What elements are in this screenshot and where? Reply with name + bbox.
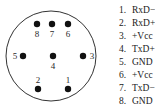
pin-1-label: 1 xyxy=(66,76,71,85)
pinout-number: 2. xyxy=(119,17,132,30)
pin-7-dot xyxy=(49,21,55,27)
pinout-signal: GND xyxy=(132,96,153,106)
pinout-item: 6.+Vcc xyxy=(119,69,155,82)
pinout-number: 3. xyxy=(119,30,132,43)
pinout-number: 5. xyxy=(119,56,132,69)
pinout-item: 3.+Vcc xyxy=(119,30,155,43)
pinout-signal: +Vcc xyxy=(132,31,153,41)
pin-2-label: 2 xyxy=(36,76,41,85)
pinout-signal: RxD− xyxy=(132,5,155,15)
pinout-item: 2.RxD+ xyxy=(119,17,155,30)
pinout-item: 1.RxD− xyxy=(119,4,155,17)
pin-8-dot xyxy=(34,21,40,27)
pin-4-dot xyxy=(50,53,56,59)
pinout-number: 4. xyxy=(119,43,132,56)
pin-5-dot xyxy=(20,53,26,59)
pinout-item: 7.TxD− xyxy=(119,82,155,95)
pin-2-dot xyxy=(35,86,41,92)
pinout-list: 1.RxD− 2.RxD+ 3.+Vcc 4.TxD+ 5.GND 6.+Vcc… xyxy=(119,4,155,108)
pinout-number: 6. xyxy=(119,69,132,82)
pin-5-label: 5 xyxy=(13,52,18,61)
pinout-number: 8. xyxy=(119,95,132,108)
pinout-item: 8.GND xyxy=(119,95,155,108)
pin-6-dot xyxy=(65,21,71,27)
pin-7-label: 7 xyxy=(50,30,55,39)
pinout-number: 7. xyxy=(119,82,132,95)
pin-8-label: 8 xyxy=(35,30,40,39)
connector-diagram: 1 2 3 4 5 6 7 8 xyxy=(0,0,102,112)
pinout-signal: TxD− xyxy=(132,83,155,93)
pin-4-label: 4 xyxy=(51,62,56,71)
pinout-number: 1. xyxy=(119,4,132,17)
pinout-signal: GND xyxy=(132,57,153,67)
pinout-signal: TxD+ xyxy=(132,44,155,54)
pinout-item: 5.GND xyxy=(119,56,155,69)
pinout-item: 4.TxD+ xyxy=(119,43,155,56)
pin-3-dot xyxy=(80,53,86,59)
pinout-signal: RxD+ xyxy=(132,18,155,28)
pin-6-label: 6 xyxy=(66,30,71,39)
pinout-signal: +Vcc xyxy=(132,70,153,80)
pin-3-label: 3 xyxy=(90,52,95,61)
pin-1-dot xyxy=(65,86,71,92)
